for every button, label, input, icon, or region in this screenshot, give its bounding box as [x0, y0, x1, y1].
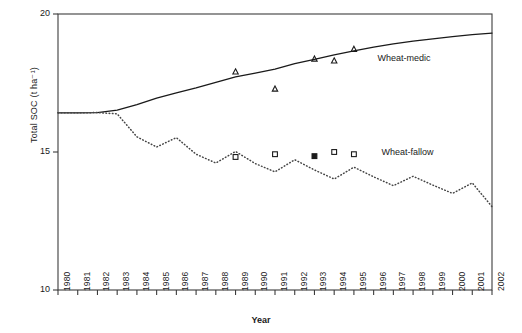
marker-square-filled — [312, 154, 317, 159]
series-label-wheat-fallow: Wheat-fallow — [382, 147, 434, 157]
x-tick-label: 1982 — [101, 280, 111, 291]
x-tick-label: 1990 — [259, 280, 269, 291]
x-tick-label: 1983 — [121, 280, 131, 291]
marker-square — [233, 155, 238, 160]
y-tick-label: 10 — [24, 284, 50, 294]
series-line-0 — [58, 33, 492, 113]
x-tick-label: 1987 — [200, 280, 210, 291]
x-tick-label: 1986 — [180, 280, 190, 291]
marker-square — [352, 152, 357, 157]
x-tick-label: 1998 — [417, 280, 427, 291]
chart-figure: Total SOC (t ha⁻¹) Year 101520 198019811… — [0, 0, 522, 333]
x-tick-label: 1981 — [82, 280, 92, 291]
x-tick-label: 2000 — [457, 280, 467, 291]
y-tick-label: 20 — [24, 8, 50, 18]
x-tick-label: 1985 — [161, 280, 171, 291]
marker-square — [332, 150, 337, 155]
series-label-wheat-medic: Wheat-medic — [378, 53, 431, 63]
x-tick-label: 1995 — [358, 280, 368, 291]
series-line-1 — [58, 113, 492, 207]
y-tick-label: 15 — [24, 146, 50, 156]
x-tick-label: 1989 — [240, 280, 250, 291]
x-tick-label: 2002 — [496, 280, 506, 291]
y-axis-title: Total SOC (t ha⁻¹) — [29, 25, 39, 185]
x-tick-label: 1980 — [62, 280, 72, 291]
x-tick-label: 1999 — [437, 280, 447, 291]
marker-triangle — [331, 58, 336, 63]
x-tick-label: 1992 — [299, 280, 309, 291]
x-tick-label: 1997 — [397, 280, 407, 291]
x-axis-title: Year — [0, 315, 522, 325]
marker-triangle — [272, 86, 277, 91]
y-axis-ticks — [53, 14, 58, 290]
marker-triangle — [233, 69, 238, 74]
x-tick-label: 1988 — [220, 280, 230, 291]
x-tick-label: 1994 — [338, 280, 348, 291]
marker-square — [273, 152, 278, 157]
marker-triangle — [312, 56, 317, 61]
x-tick-label: 2001 — [476, 280, 486, 291]
x-tick-label: 1993 — [318, 280, 328, 291]
x-tick-label: 1991 — [279, 280, 289, 291]
x-tick-label: 1996 — [378, 280, 388, 291]
x-tick-label: 1984 — [141, 280, 151, 291]
